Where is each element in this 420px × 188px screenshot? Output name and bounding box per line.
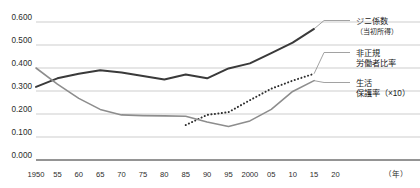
x-axis-tick-label: 90	[203, 170, 211, 179]
x-axis-tick-label: 60	[75, 170, 83, 179]
legend-leader-line-3	[314, 81, 350, 83]
series-line-2	[186, 74, 314, 125]
x-axis-tick-label: 55	[53, 170, 61, 179]
y-axis-tick-label: 0.500	[12, 36, 33, 45]
legend-label-2-line2: 労働者比率	[356, 58, 396, 68]
x-axis-tick-label: 95	[224, 170, 232, 179]
y-axis-tick-label: 0.400	[12, 59, 33, 68]
x-axis-tick-label: 85	[181, 170, 189, 179]
legend-label-3-line2: 保護率（×10）	[356, 88, 410, 98]
x-axis-tick-label: 05	[267, 170, 275, 179]
chart-canvas: 0.6000.5000.4000.3000.2000.1000.000 1950…	[0, 0, 420, 188]
x-axis-unit-label: （年）	[384, 169, 408, 179]
y-axis-tick-labels: 0.6000.5000.4000.3000.2000.1000.000	[12, 13, 33, 160]
legend-leader-line-2	[314, 53, 350, 74]
gini-coefficient-line-chart: 0.6000.5000.4000.3000.2000.1000.000 1950…	[0, 0, 420, 188]
legend-label-3-line1: 生活	[356, 78, 372, 88]
chart-legend: ジニ係数（当初所得）非正規労働者比率生活保護率（×10）	[314, 16, 410, 98]
x-axis-tick-label: 15	[310, 170, 318, 179]
y-axis-tick-label: 0.200	[12, 105, 33, 114]
series-line-1	[36, 29, 314, 87]
x-axis-tick-label: 1950	[28, 170, 45, 179]
y-axis-tick-label: 0.300	[12, 82, 33, 91]
x-axis-tick-label: 75	[139, 170, 147, 179]
legend-label-1-line2: （当初所得）	[356, 27, 398, 36]
legend-label-2-line1: 非正規	[356, 48, 380, 58]
series-lines-group	[36, 29, 314, 127]
x-axis-tick-label: 20	[331, 170, 339, 179]
legend-label-1-line1: ジニ係数	[356, 16, 388, 26]
x-axis-tick-label: 10	[288, 170, 296, 179]
y-axis-tick-label: 0.600	[12, 13, 33, 22]
y-axis-tick-label: 0.000	[12, 151, 33, 160]
y-axis-tick-label: 0.100	[12, 128, 33, 137]
x-axis-tick-label: 65	[96, 170, 104, 179]
x-axis-tick-label: 2000	[241, 170, 258, 179]
x-axis-tick-label: 70	[117, 170, 125, 179]
x-axis-tick-labels: 1950556065707580859095200005101520	[28, 170, 340, 179]
x-axis-tick-label: 80	[160, 170, 168, 179]
